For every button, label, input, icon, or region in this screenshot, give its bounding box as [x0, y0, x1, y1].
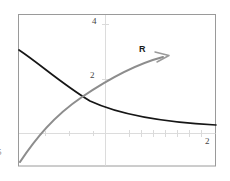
- x-axis-tick-label-2: 2: [205, 137, 210, 146]
- y-axis-tick-label-2: 2: [90, 71, 95, 80]
- curve-annotation-r: R: [139, 45, 146, 54]
- y-axis-tick-label-4: 4: [92, 17, 97, 26]
- clipped-edge-glyph: 5: [0, 148, 3, 157]
- plot-frame: [19, 15, 216, 167]
- figure-container: 4 2 2 R 5: [0, 0, 230, 181]
- plot-svg: [0, 0, 230, 181]
